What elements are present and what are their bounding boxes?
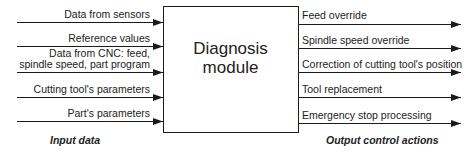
input-label-reference: Reference values bbox=[68, 33, 150, 44]
input-label-part-params: Part's parameters bbox=[67, 108, 150, 119]
input-label-tool-params: Cutting tool's parameters bbox=[34, 84, 150, 95]
output-label-emergency-stop: Emergency stop processing bbox=[302, 110, 432, 121]
module-title-line2: module bbox=[203, 58, 259, 77]
input-data-caption: Input data bbox=[50, 134, 100, 146]
output-label-tool-correction: Correction of cutting tool's position bbox=[302, 59, 462, 70]
diagnosis-module-title: Diagnosis module bbox=[163, 6, 298, 132]
output-label-feed-override: Feed override bbox=[302, 10, 367, 21]
output-actions-caption: Output control actions bbox=[326, 134, 439, 146]
input-label-sensors: Data from sensors bbox=[64, 9, 150, 20]
output-label-spindle-override: Spindle speed override bbox=[302, 35, 409, 46]
output-label-tool-replacement: Tool replacement bbox=[302, 84, 382, 95]
module-title-line1: Diagnosis bbox=[193, 39, 268, 58]
input-label-cnc-line2: spindle speed, part program bbox=[19, 59, 150, 70]
